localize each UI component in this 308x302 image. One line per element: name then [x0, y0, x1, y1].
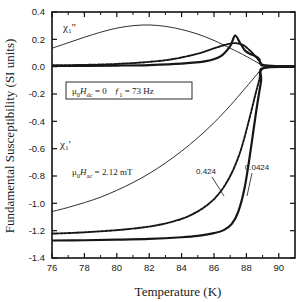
y-tick-label: -0.2	[29, 88, 45, 99]
curve-label-00424: 0.0424	[245, 163, 270, 172]
y-tick-label: 0.0	[32, 61, 45, 72]
y-tick-label: -1.2	[29, 225, 45, 236]
y-tick-label: 0.4	[32, 6, 45, 17]
chi-real-label: χ₁'	[59, 138, 71, 150]
y-tick-label: -1.0	[29, 198, 45, 209]
x-tick-label: 78	[79, 262, 90, 273]
y-tick-label: -1.4	[29, 252, 45, 263]
x-tick-label: 82	[144, 262, 155, 273]
y-tick-label: -0.4	[29, 116, 45, 127]
curve-label-0424: 0.424	[196, 167, 217, 176]
x-tick-label: 90	[274, 262, 285, 273]
annotation-hac-text: μ0Hac = 2.12 mT	[72, 167, 133, 179]
chart-background	[0, 0, 308, 302]
x-tick-label: 80	[112, 262, 123, 273]
y-tick-label: -0.8	[29, 170, 45, 181]
x-tick-label: 88	[241, 262, 252, 273]
y-axis-title: Fundamental Susceptibility (SI units)	[2, 39, 17, 234]
y-tick-label: -0.6	[29, 143, 45, 154]
x-tick-label: 84	[176, 262, 187, 273]
chi-imaginary-label: χ₁''	[62, 21, 76, 33]
susceptibility-vs-temperature-chart: Fundamental Susceptibility (SI units) Te…	[0, 0, 308, 302]
x-axis-title: Temperature (K)	[135, 284, 222, 299]
x-tick-label: 76	[47, 262, 58, 273]
y-tick-label: 0.2	[32, 34, 45, 45]
x-tick-label: 86	[209, 262, 220, 273]
chart-figure: Fundamental Susceptibility (SI units) Te…	[0, 0, 308, 302]
boxed-annotation: μ0Hdc = 0ƒ1 = 73 Hz	[66, 82, 192, 99]
